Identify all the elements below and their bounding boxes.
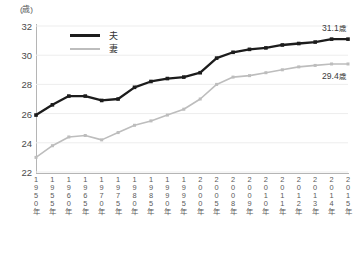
data-point-marker bbox=[116, 97, 120, 101]
data-point-marker bbox=[215, 83, 218, 86]
data-point-marker bbox=[347, 62, 350, 65]
x-axis-tick: 1955年 bbox=[48, 176, 57, 216]
y-axis-tick: 32 bbox=[12, 21, 32, 32]
data-point-marker bbox=[84, 134, 87, 137]
legend-label-wife: 妻 bbox=[109, 42, 118, 55]
x-axis-tick: 1960年 bbox=[64, 176, 73, 216]
data-point-marker bbox=[67, 135, 70, 138]
data-point-marker bbox=[133, 124, 136, 127]
x-axis-tick: 2012年 bbox=[294, 176, 303, 216]
x-axis-tick: 1950年 bbox=[32, 176, 41, 216]
x-axis-tick-labels: 1950年1955年1960年1965年1970年1975年1980年1985年… bbox=[36, 176, 349, 254]
x-axis-tick: 1985年 bbox=[146, 176, 155, 216]
data-point-marker bbox=[35, 156, 38, 159]
x-axis-tick: 1995年 bbox=[179, 176, 188, 216]
x-axis-tick: 2000年 bbox=[196, 176, 205, 216]
data-point-marker bbox=[281, 68, 284, 71]
x-axis-tick: 2008年 bbox=[229, 176, 238, 216]
data-point-marker bbox=[182, 75, 186, 79]
legend-swatch-wife-icon bbox=[70, 48, 100, 50]
data-point-marker bbox=[297, 42, 301, 46]
data-point-marker bbox=[133, 86, 137, 90]
data-point-marker bbox=[346, 37, 350, 41]
data-point-marker bbox=[248, 74, 251, 77]
x-axis-tick: 2011年 bbox=[278, 176, 287, 216]
data-point-marker bbox=[67, 94, 71, 98]
data-point-marker bbox=[231, 50, 235, 54]
data-point-marker bbox=[264, 71, 267, 74]
data-point-marker bbox=[264, 46, 268, 50]
data-point-marker bbox=[198, 71, 202, 75]
x-axis-tick: 2005年 bbox=[212, 176, 221, 216]
data-point-marker bbox=[51, 144, 54, 147]
data-point-marker bbox=[182, 108, 185, 111]
data-point-marker bbox=[215, 56, 219, 60]
x-axis-tick: 2013年 bbox=[311, 176, 320, 216]
data-point-marker bbox=[248, 48, 252, 52]
data-point-marker bbox=[281, 43, 285, 47]
legend-item-husband: 夫 bbox=[70, 29, 154, 42]
x-axis-tick: 2009年 bbox=[245, 176, 254, 216]
data-point-marker bbox=[117, 131, 120, 134]
x-axis-line bbox=[36, 173, 349, 174]
x-axis-tick: 1965年 bbox=[81, 176, 90, 216]
legend-swatch-husband-icon bbox=[70, 34, 100, 37]
data-point-marker bbox=[330, 62, 333, 65]
data-point-marker bbox=[34, 113, 38, 117]
x-axis-tick: 1990年 bbox=[163, 176, 172, 216]
x-axis-tick: 2014年 bbox=[327, 176, 336, 216]
annotation-wife-end: 29.4歳 bbox=[322, 70, 346, 81]
x-axis-tick: 1970年 bbox=[97, 176, 106, 216]
data-point-marker bbox=[166, 77, 170, 81]
chart-container: (歳) 323028262422 夫 妻 31.1歳 29.4歳 1950年19… bbox=[0, 0, 357, 256]
y-axis-tick: 30 bbox=[12, 50, 32, 61]
data-point-marker bbox=[330, 37, 334, 41]
data-point-marker bbox=[149, 119, 152, 122]
data-point-marker bbox=[232, 76, 235, 79]
data-point-marker bbox=[313, 40, 317, 44]
data-point-marker bbox=[100, 99, 104, 103]
legend: 夫 妻 bbox=[70, 29, 154, 55]
data-point-marker bbox=[149, 80, 153, 84]
y-axis-tick: 26 bbox=[12, 108, 32, 119]
line-wife bbox=[36, 64, 348, 157]
data-point-marker bbox=[199, 98, 202, 101]
data-point-marker bbox=[100, 138, 103, 141]
y-axis-tick: 22 bbox=[12, 167, 32, 178]
legend-label-husband: 夫 bbox=[109, 29, 118, 42]
data-point-marker bbox=[51, 103, 55, 107]
data-point-marker bbox=[314, 64, 317, 67]
legend-item-wife: 妻 bbox=[70, 42, 154, 55]
annotation-husband-end: 31.1歳 bbox=[322, 22, 346, 33]
y-axis-tick: 24 bbox=[12, 137, 32, 148]
x-axis-tick: 2010年 bbox=[261, 176, 270, 216]
x-axis-tick: 1980年 bbox=[130, 176, 139, 216]
x-axis-tick: 1975年 bbox=[114, 176, 123, 216]
markers-wife bbox=[35, 62, 350, 158]
y-axis-tick: 28 bbox=[12, 79, 32, 90]
data-point-marker bbox=[166, 114, 169, 117]
data-point-marker bbox=[297, 65, 300, 68]
x-axis-tick: 2015年 bbox=[344, 176, 353, 216]
data-point-marker bbox=[83, 94, 87, 98]
